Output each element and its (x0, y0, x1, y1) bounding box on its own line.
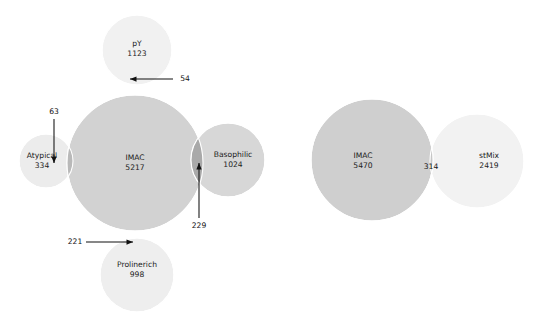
set-count-prolinerich: 998 (130, 270, 145, 279)
venn-figure: pY 1123 Atypical 334 IMAC 5217 Basophili… (0, 0, 542, 316)
set-label-prolinerich: Prolinerich (117, 260, 157, 269)
set-count-imac: 5217 (125, 163, 144, 172)
set-count-atypical: 334 (35, 161, 50, 170)
overlap-value-314: 314 (424, 162, 439, 171)
set-label-imac2: IMAC (353, 151, 372, 160)
annotation-value-221: 221 (68, 237, 83, 246)
annotation-value-63: 63 (49, 107, 59, 116)
set-count-basophilic: 1024 (223, 160, 242, 169)
set-count-imac2: 5470 (353, 161, 372, 170)
venn-canvas: pY 1123 Atypical 334 IMAC 5217 Basophili… (0, 0, 542, 316)
set-label-basophilic: Basophilic (214, 150, 253, 159)
set-count-py: 1123 (127, 49, 146, 58)
set-label-py: pY (132, 39, 142, 48)
set-label-atypical: Atypical (27, 151, 57, 160)
annotation-value-229: 229 (192, 221, 207, 230)
set-label-imac: IMAC (125, 153, 144, 162)
right-panel: IMAC 5470 stMix 2419 314 (311, 99, 524, 221)
left-panel: pY 1123 Atypical 334 IMAC 5217 Basophili… (19, 15, 265, 312)
set-label-stmix: stMix (479, 151, 500, 160)
set-count-stmix: 2419 (479, 161, 498, 170)
annotation-value-54: 54 (180, 74, 190, 83)
